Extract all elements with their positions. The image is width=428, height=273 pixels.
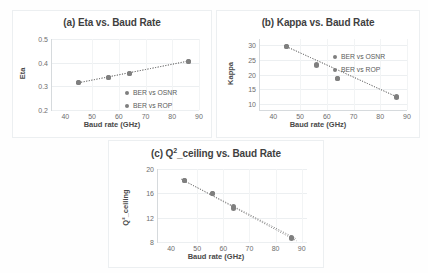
chart-title-c: (c) Q2_ceiling vs. Baud Rate [109,147,323,159]
trendline [76,61,191,84]
x-axis-tick: 90 [403,113,411,120]
legend-a: BER vs OSNR BER vs ROP [125,89,177,115]
legend-label-osnr: BER vs OSNR [341,53,385,60]
trendline [182,179,297,239]
data-point [182,178,187,183]
x-axis-label-a: Baud rate (GHz) [13,120,211,129]
legend-item-osnr: BER vs OSNR [125,89,177,96]
plot-area-c: 8121620405060708090 [157,169,307,243]
x-axis-tick: 50 [193,245,201,252]
x-axis-tick: 60 [323,113,331,120]
x-axis-tick: 90 [195,113,203,120]
x-axis-tick: 50 [88,113,96,120]
y-axis-label-c: Q²_ceiling [121,189,130,225]
legend-label-osnr: BER vs OSNR [133,89,177,96]
data-point [186,59,191,64]
legend-b: BER vs OSNR BER vs ROP [333,53,385,79]
legend-item-rop: BER vs ROP [125,102,177,109]
x-axis-tick: 40 [61,113,69,120]
y-axis-tick: 0.5 [38,36,48,43]
chart-title-c-rest: _ceiling vs. Baud Rate [177,148,281,159]
figure-canvas: (a) Eta vs. Baud Rate Eta Baud rate (GHz… [0,0,428,273]
x-gridline [407,39,408,110]
y-axis-tick: 12 [146,214,154,221]
legend-item-osnr: BER vs OSNR [333,53,385,60]
y-gridline [158,242,307,243]
x-axis-tick: 40 [167,245,175,252]
x-axis-tick: 80 [376,113,384,120]
x-axis-label-b: Baud rate (GHz) [217,120,419,129]
x-axis-tick: 60 [115,113,123,120]
legend-marker-icon [125,91,129,95]
y-axis-tick: 16 [146,190,154,197]
data-point [127,71,132,76]
chart-panel-eta: (a) Eta vs. Baud Rate Eta Baud rate (GHz… [12,10,212,138]
x-axis-label-c: Baud rate (GHz) [109,252,323,261]
y-axis-tick: 30 [248,41,256,48]
y-axis-tick: 20 [248,71,256,78]
legend-marker-icon [333,68,337,72]
legend-item-rop: BER vs ROP [333,66,385,73]
data-point [284,44,289,49]
y-axis-tick: 10 [248,101,256,108]
y-axis-tick: 8 [150,239,154,246]
chart-panel-q2ceiling: (c) Q2_ceiling vs. Baud Rate Q²_ceiling … [108,140,324,268]
x-axis-tick: 80 [272,245,280,252]
legend-marker-icon [333,55,337,59]
chart-title-c-base: (c) Q [151,148,173,159]
chart-title-a: (a) Eta vs. Baud Rate [13,17,211,28]
legend-label-rop: BER vs ROP [341,66,380,73]
chart-title-b: (b) Kappa vs. Baud Rate [217,17,419,28]
data-point [314,63,319,68]
x-axis-tick: 90 [298,245,306,252]
legend-label-rop: BER vs ROP [133,102,172,109]
data-point [106,75,111,80]
x-axis-tick: 50 [296,113,304,120]
y-axis-label-a: Eta [18,68,27,80]
data-point [394,95,399,100]
y-axis-tick: 0.3 [38,83,48,90]
y-axis-label-b: Kappa [226,62,235,85]
x-axis-tick: 40 [269,113,277,120]
y-axis-tick: 25 [248,56,256,63]
legend-marker-icon [125,104,129,108]
trendline [182,179,297,240]
x-axis-tick: 70 [350,113,358,120]
chart-panel-kappa: (b) Kappa vs. Baud Rate Kappa Baud rate … [216,10,420,138]
y-axis-tick: 0.4 [38,59,48,66]
y-axis-tick: 20 [146,166,154,173]
y-axis-tick: 0.2 [38,107,48,114]
y-axis-tick: 15 [248,86,256,93]
x-axis-tick: 60 [219,245,227,252]
x-gridline [199,39,200,110]
x-axis-tick: 70 [246,245,254,252]
